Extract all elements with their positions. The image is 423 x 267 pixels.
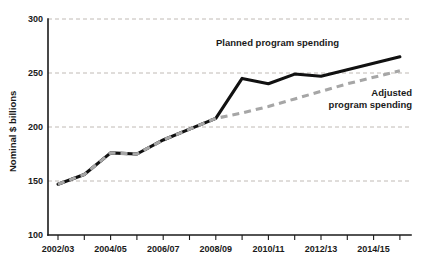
y-tick-label-100: 100	[28, 230, 43, 240]
x-axis-tick-labels: 2002/032004/052006/072008/092010/112012/…	[42, 244, 390, 254]
y-axis-tick-labels: 100150200250300	[28, 14, 43, 240]
series-label-planned-program-spending-line1: Planned program spending	[216, 37, 339, 48]
y-tick-label-200: 200	[28, 122, 43, 132]
series-label-adjusted-program-spending-line1: Adjusted	[371, 87, 412, 98]
data-series	[58, 57, 400, 184]
series-labels: Planned program spendingAdjustedprogram …	[216, 37, 412, 110]
x-tick-label-2008-09: 2008/09	[200, 244, 233, 254]
x-tick-label-2004-05: 2004/05	[94, 244, 127, 254]
y-tick-label-250: 250	[28, 68, 43, 78]
y-tick-label-150: 150	[28, 176, 43, 186]
series-line-adjusted-overlap-segment	[58, 118, 216, 184]
y-axis-title: Nominal $ billions	[7, 91, 18, 172]
series-label-adjusted-program-spending-line2: program spending	[329, 99, 413, 110]
series-line-adjusted-program-spending	[58, 71, 400, 184]
line-chart: 100150200250300 2002/032004/052006/07200…	[0, 0, 423, 267]
x-tick-label-2014-15: 2014/15	[357, 244, 390, 254]
x-tick-label-2002-03: 2002/03	[42, 244, 75, 254]
x-tick-label-2010-11: 2010/11	[252, 244, 284, 254]
x-tick-label-2012-13: 2012/13	[305, 244, 338, 254]
chart-container: 100150200250300 2002/032004/052006/07200…	[0, 0, 423, 267]
series-line-planned-program-spending	[58, 57, 400, 184]
x-tick-label-2006-07: 2006/07	[147, 244, 180, 254]
y-tick-label-300: 300	[28, 14, 43, 24]
